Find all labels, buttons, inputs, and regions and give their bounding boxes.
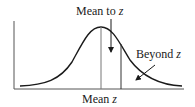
beyond-z-label: Beyond z	[136, 47, 181, 61]
beyond-z-arrow	[136, 65, 155, 80]
normal-curve-diagram: Mean to z Beyond z Mean z	[0, 0, 195, 107]
mean-to-z-label: Mean to z	[76, 4, 124, 18]
mean-z-label: Mean z	[82, 92, 117, 106]
